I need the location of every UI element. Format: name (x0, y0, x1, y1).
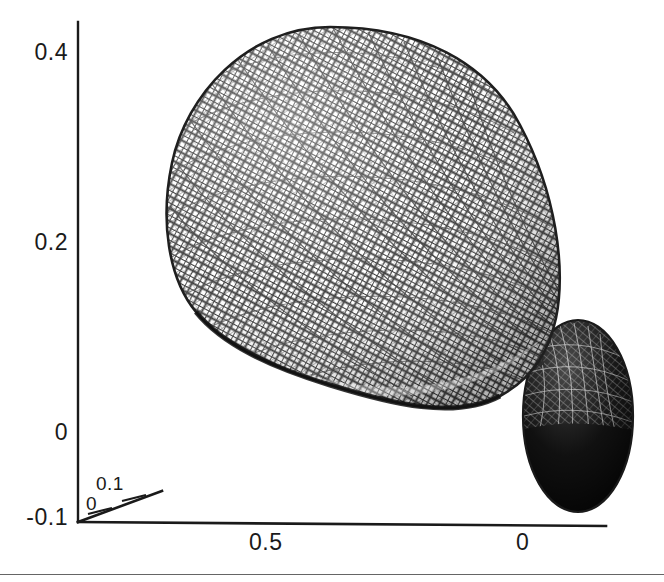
y-tick-label-3: -0.1 (4, 506, 68, 529)
z-tick-label-0: 0 (86, 494, 97, 513)
z-tick-label-1: 0.1 (96, 474, 124, 493)
page-bottom-rule (0, 574, 664, 575)
x-axis-line (78, 522, 606, 526)
large-lobe-mesh (150, 15, 580, 425)
plot-canvas (0, 0, 664, 582)
y-tick-label-0: 0.4 (24, 41, 68, 64)
x-tick-label-1: 0 (516, 531, 529, 554)
y-tick-label-2: 0 (24, 421, 68, 444)
x-tick-label-0: 0.5 (249, 531, 282, 554)
figure-page: 0.4 0.2 0 -0.1 0.5 0 0 0.1 (0, 0, 664, 582)
y-tick-label-1: 0.2 (24, 231, 68, 254)
